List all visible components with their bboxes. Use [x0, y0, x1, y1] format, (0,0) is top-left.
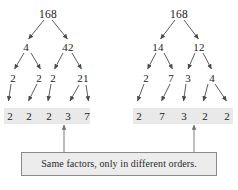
left-tree-root: 168 [39, 9, 57, 20]
right-tree-leaf-5: 2 [224, 111, 230, 122]
left-tree-node-l2-a: 4 [23, 42, 29, 53]
right-tree-leaf-2: 7 [159, 111, 165, 122]
left-tree-leaf-3: 2 [46, 111, 52, 122]
left-tree-node-l2-b: 42 [62, 42, 73, 53]
left-tree-node-l3-d: 21 [77, 73, 88, 84]
right-tree-node-l2-b: 12 [193, 42, 204, 53]
left-tree-node-l3-a: 2 [10, 73, 16, 84]
left-tree-node-l3-c: 2 [50, 73, 56, 84]
right-tree-leaf-4: 2 [202, 111, 208, 122]
right-tree-node-l3-b: 7 [168, 73, 174, 84]
right-tree-node-l3-a: 2 [143, 73, 149, 84]
right-tree-node-l3-d: 4 [209, 73, 215, 84]
factor-tree-diagram: 168 4 42 2 2 2 21 2 2 2 3 7 168 14 12 2 … [0, 0, 238, 190]
right-tree-leaf-1: 2 [136, 111, 142, 122]
right-tree-node-l2-a: 14 [152, 42, 163, 53]
right-tree-root: 168 [170, 9, 188, 20]
left-tree-leaf-1: 2 [7, 111, 13, 122]
caption-box: Same factors, only in different orders. [21, 152, 217, 176]
left-tree-node-l3-b: 2 [36, 73, 42, 84]
right-tree-node-l3-c: 3 [185, 73, 191, 84]
left-tree-leaf-5: 7 [84, 111, 90, 122]
right-tree-leaf-3: 3 [181, 111, 187, 122]
caption-text: Same factors, only in different orders. [41, 159, 197, 169]
left-tree-leaf-2: 2 [26, 111, 32, 122]
left-tree-leaf-4: 3 [65, 111, 71, 122]
